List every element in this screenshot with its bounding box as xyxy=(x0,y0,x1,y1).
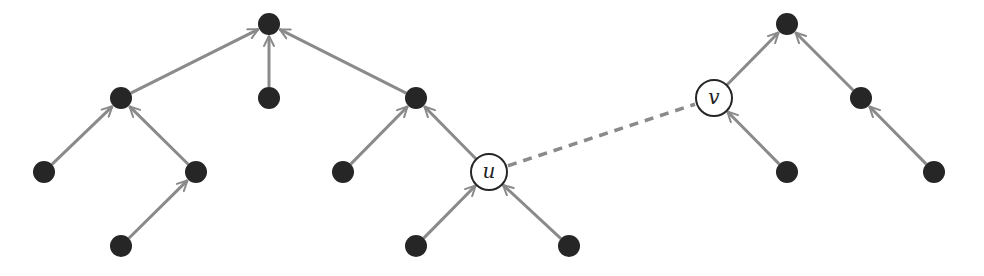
edges-layer xyxy=(52,29,926,238)
node-G xyxy=(110,235,132,257)
node-M xyxy=(776,161,798,183)
filled-node-circle xyxy=(258,87,280,109)
filled-node-circle xyxy=(776,161,798,183)
node-N xyxy=(923,161,945,183)
filled-node-circle xyxy=(923,161,945,183)
filled-node-circle xyxy=(33,161,55,183)
filled-node-circle xyxy=(776,13,798,35)
node-F xyxy=(185,161,207,183)
edge-F-to-B xyxy=(130,106,189,164)
edge-M-to-v xyxy=(727,112,779,165)
edge-I-to-u xyxy=(424,186,476,239)
edge-L-to-K xyxy=(795,32,853,90)
node-B xyxy=(110,87,132,109)
node-H xyxy=(332,161,354,183)
node-E xyxy=(33,161,55,183)
node-A xyxy=(258,13,280,35)
filled-node-circle xyxy=(110,87,132,109)
nodes-layer: uv xyxy=(33,13,945,257)
filled-node-circle xyxy=(332,161,354,183)
node-D xyxy=(405,87,427,109)
edge-D-to-A xyxy=(280,29,406,93)
forest-diagram: uv xyxy=(0,0,984,276)
node-label-v: v xyxy=(708,85,720,109)
node-L xyxy=(850,87,872,109)
node-u: u xyxy=(471,154,507,190)
node-v: v xyxy=(696,80,732,116)
filled-node-circle xyxy=(258,13,280,35)
node-I xyxy=(405,235,427,257)
edge-J-to-u xyxy=(503,185,561,239)
node-K xyxy=(776,13,798,35)
filled-node-circle xyxy=(558,235,580,257)
filled-node-circle xyxy=(110,235,132,257)
edge-v-to-K xyxy=(727,33,779,86)
filled-node-circle xyxy=(405,87,427,109)
edge-G-to-F xyxy=(129,180,188,238)
edge-B-to-A xyxy=(131,29,258,93)
edge-N-to-L xyxy=(869,107,926,165)
filled-node-circle xyxy=(850,87,872,109)
edge-u-to-D xyxy=(424,107,476,160)
node-label-u: u xyxy=(483,159,496,183)
edge-E-to-B xyxy=(52,106,112,164)
dashed-edge-u-v xyxy=(508,104,695,166)
node-J xyxy=(558,235,580,257)
filled-node-circle xyxy=(405,235,427,257)
edge-H-to-D xyxy=(351,107,408,165)
filled-node-circle xyxy=(185,161,207,183)
node-C xyxy=(258,87,280,109)
